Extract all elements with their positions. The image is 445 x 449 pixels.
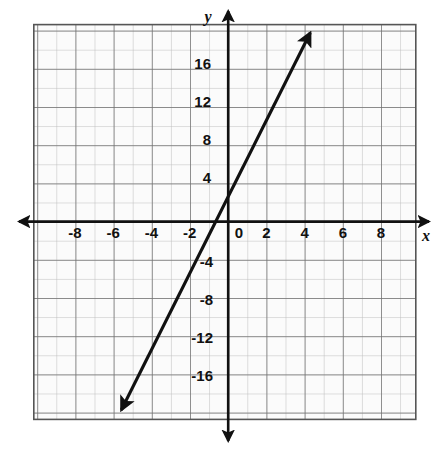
y-tick-label-8: 8 bbox=[203, 131, 211, 148]
graph-canvas: y x 0 -8 -6 -4 -2 2 4 6 8 16 12 8 4 -4 -… bbox=[0, 0, 445, 449]
x-tick-label-2: 2 bbox=[262, 224, 270, 241]
y-tick-label--8: -8 bbox=[200, 291, 213, 308]
origin-label: 0 bbox=[235, 224, 243, 241]
x-tick-label-6: 6 bbox=[339, 224, 347, 241]
x-tick-label--8: -8 bbox=[68, 224, 81, 241]
y-tick-label--16: -16 bbox=[191, 367, 213, 384]
y-tick-label--4: -4 bbox=[200, 253, 214, 270]
y-tick-label--12: -12 bbox=[191, 329, 213, 346]
y-tick-label-4: 4 bbox=[203, 169, 212, 186]
x-tick-label--4: -4 bbox=[145, 224, 159, 241]
x-axis-label: x bbox=[421, 227, 430, 244]
x-tick-label--6: -6 bbox=[107, 224, 120, 241]
coordinate-plane-figure: y x 0 -8 -6 -4 -2 2 4 6 8 16 12 8 4 -4 -… bbox=[0, 0, 445, 449]
x-tick-label-4: 4 bbox=[300, 224, 309, 241]
x-tick-label--2: -2 bbox=[183, 224, 196, 241]
y-axis-label: y bbox=[202, 8, 212, 26]
y-tick-label-12: 12 bbox=[194, 93, 211, 110]
y-tick-label-16: 16 bbox=[194, 55, 211, 72]
x-tick-label-8: 8 bbox=[377, 224, 385, 241]
